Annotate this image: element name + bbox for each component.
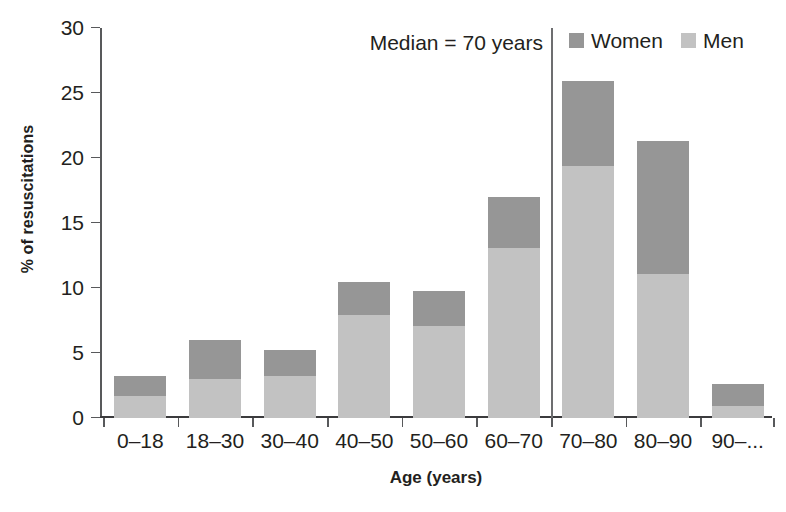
x-tick xyxy=(327,418,329,427)
bar-stack: 80–90 xyxy=(637,141,689,418)
x-category-label: 18–30 xyxy=(186,430,244,451)
bar-segment-women xyxy=(712,384,764,406)
bar-segment-women xyxy=(488,197,540,248)
x-tick xyxy=(402,418,404,427)
bar-segment-women xyxy=(189,340,241,379)
bar-stack: 50–60 xyxy=(413,291,465,418)
bar-segment-women xyxy=(264,350,316,376)
y-tick-label: 30 xyxy=(61,17,84,38)
median-label: Median = 70 years xyxy=(370,32,543,53)
median-line xyxy=(551,28,553,418)
y-tick-label: 25 xyxy=(61,82,84,103)
x-tick xyxy=(626,418,628,427)
bar-segment-men xyxy=(189,379,241,418)
chart-figure: % of resuscitations 051015202530 0–1818–… xyxy=(0,0,786,512)
bar-segment-women xyxy=(114,376,166,396)
x-category-label: 50–60 xyxy=(410,430,468,451)
bar-segment-men xyxy=(488,248,540,418)
bar-segment-men xyxy=(413,326,465,418)
legend-label: Men xyxy=(703,30,744,51)
y-tick: 5 xyxy=(91,352,100,354)
legend-swatch xyxy=(681,33,696,48)
bar-stack: 18–30 xyxy=(189,340,241,418)
y-tick-label: 5 xyxy=(72,342,84,363)
y-tick: 15 xyxy=(91,222,100,224)
y-tick-label: 10 xyxy=(61,277,84,298)
x-tick xyxy=(252,418,254,427)
y-axis-title: % of resuscitations xyxy=(19,79,37,319)
legend-swatch xyxy=(569,33,584,48)
y-tick-label: 20 xyxy=(61,147,84,168)
x-category-label: 40–50 xyxy=(335,430,393,451)
y-tick: 20 xyxy=(91,157,100,159)
y-tick: 30 xyxy=(91,27,100,29)
x-category-label: 90–... xyxy=(711,430,764,451)
bar-segment-women xyxy=(562,81,614,166)
bar-segment-women xyxy=(637,141,689,274)
bar-segment-men xyxy=(712,406,764,418)
x-category-label: 70–80 xyxy=(559,430,617,451)
bar-segment-men xyxy=(562,166,614,418)
bar-stack: 60–70 xyxy=(488,197,540,418)
bar-segment-women xyxy=(413,291,465,326)
y-tick-label: 0 xyxy=(72,407,84,428)
bar-segment-men xyxy=(637,274,689,418)
bar-stack: 70–80 xyxy=(562,81,614,418)
y-tick-label: 15 xyxy=(61,212,84,233)
bar-stack: 90–... xyxy=(712,384,764,418)
bar-segment-men xyxy=(338,315,390,418)
y-tick: 10 xyxy=(91,287,100,289)
x-category-label: 60–70 xyxy=(484,430,542,451)
x-tick xyxy=(700,418,702,427)
y-tick: 0 xyxy=(91,417,100,419)
bar-stack: 30–40 xyxy=(264,350,316,418)
x-tick xyxy=(773,418,775,427)
bar-segment-women xyxy=(338,282,390,316)
legend-label: Women xyxy=(591,30,663,51)
bar-stack: 40–50 xyxy=(338,282,390,419)
x-axis-title: Age (years) xyxy=(100,468,772,488)
legend-item: Women xyxy=(569,30,663,51)
bar-stack: 0–18 xyxy=(114,376,166,418)
x-category-label: 0–18 xyxy=(117,430,164,451)
y-axis-line xyxy=(100,28,102,418)
bar-segment-men xyxy=(264,376,316,418)
x-category-label: 30–40 xyxy=(260,430,318,451)
y-tick: 25 xyxy=(91,92,100,94)
x-tick xyxy=(476,418,478,427)
bar-segment-men xyxy=(114,396,166,418)
x-tick xyxy=(178,418,180,427)
x-tick xyxy=(551,418,553,427)
legend-item: Men xyxy=(681,30,744,51)
chart-legend: WomenMen xyxy=(569,30,744,51)
x-tick xyxy=(103,418,105,427)
x-category-label: 80–90 xyxy=(634,430,692,451)
plot-area: 051015202530 0–1818–3030–4040–5050–6060–… xyxy=(100,28,772,418)
